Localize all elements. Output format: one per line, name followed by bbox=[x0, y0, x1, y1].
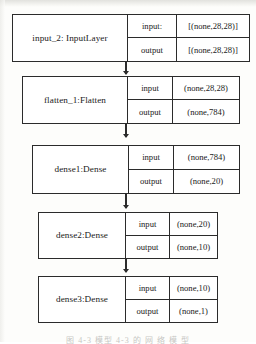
input-label: input bbox=[129, 146, 173, 169]
layer-output-row: output (none,784) bbox=[128, 100, 239, 123]
layer-input-row: input (none,28,28) bbox=[128, 77, 239, 100]
input-shape-value: (none,784) bbox=[173, 146, 239, 169]
output-shape-value: [(none,28,28)] bbox=[176, 38, 249, 61]
layer-io-table: input (none,784) output (none,20) bbox=[128, 146, 239, 193]
layer-node-input-2[interactable]: input_2: InputLayer input: [(none,28,28)… bbox=[12, 14, 250, 62]
layer-io-table: input (none,20) output (none,10) bbox=[125, 213, 217, 258]
output-shape-value: (none,20) bbox=[173, 170, 239, 194]
output-shape-value: (none,784) bbox=[172, 100, 239, 123]
output-label: output bbox=[129, 170, 173, 194]
layer-output-row: output [(none,28,28)] bbox=[128, 38, 249, 61]
output-label: output bbox=[126, 300, 169, 323]
input-shape-value: (none,10) bbox=[169, 277, 217, 299]
input-shape-value: (none,20) bbox=[169, 213, 217, 235]
layer-name: dense3:Dense bbox=[39, 277, 125, 322]
layer-output-row: output (none,20) bbox=[129, 170, 239, 194]
layer-input-row: input (none,784) bbox=[129, 146, 239, 170]
output-label: output bbox=[126, 236, 169, 259]
layer-io-table: input (none,28,28) output (none,784) bbox=[127, 77, 239, 123]
layer-node-dense2[interactable]: dense2:Dense input (none,20) output (non… bbox=[38, 212, 218, 259]
input-label: input: bbox=[128, 15, 176, 37]
input-label: input bbox=[126, 213, 169, 235]
connector-arrowhead-dense2-to-dense3 bbox=[123, 269, 129, 273]
output-shape-value: (none,1) bbox=[169, 300, 217, 323]
layer-node-dense1[interactable]: dense1:Dense input (none,784) output (no… bbox=[32, 145, 240, 194]
layer-name: flatten_1:Flatten bbox=[23, 77, 127, 123]
connector-arrowhead-dense1-to-dense2 bbox=[123, 205, 129, 209]
connector-arrowhead-input2-to-flatten1 bbox=[123, 71, 129, 75]
layer-input-row: input: [(none,28,28)] bbox=[128, 15, 249, 38]
output-label: output bbox=[128, 38, 176, 61]
output-label: output bbox=[128, 100, 172, 123]
input-label: input bbox=[128, 77, 172, 99]
layer-output-row: output (none,1) bbox=[126, 300, 217, 323]
layer-output-row: output (none,10) bbox=[126, 236, 217, 259]
layer-name: dense2:Dense bbox=[39, 213, 125, 258]
layer-name: input_2: InputLayer bbox=[13, 15, 127, 61]
output-shape-value: (none,10) bbox=[169, 236, 217, 259]
input-shape-value: (none,28,28) bbox=[172, 77, 239, 99]
layer-node-dense3[interactable]: dense3:Dense input (none,10) output (non… bbox=[38, 276, 218, 323]
layer-input-row: input (none,10) bbox=[126, 277, 217, 300]
layer-name: dense1:Dense bbox=[33, 146, 128, 193]
layer-io-table: input (none,10) output (none,1) bbox=[125, 277, 217, 322]
input-label: input bbox=[126, 277, 169, 299]
layer-io-table: input: [(none,28,28)] output [(none,28,2… bbox=[127, 15, 249, 61]
connector-arrowhead-flatten1-to-dense1 bbox=[123, 134, 129, 138]
input-shape-value: [(none,28,28)] bbox=[176, 15, 249, 37]
layer-input-row: input (none,20) bbox=[126, 213, 217, 236]
layer-node-flatten-1[interactable]: flatten_1:Flatten input (none,28,28) out… bbox=[22, 76, 240, 124]
figure-caption: 图 4-3 模型 4-3 的 网 络 模 型 bbox=[0, 334, 256, 344]
